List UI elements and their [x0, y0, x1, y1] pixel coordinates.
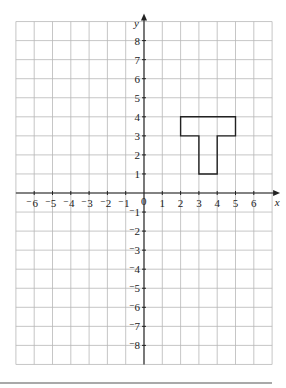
t-shape-outline [181, 117, 236, 174]
x-tick-label: 2 [178, 197, 184, 209]
y-tick-label: ⁻6 [129, 301, 141, 313]
axes [16, 14, 280, 365]
x-axis-label: x [274, 196, 280, 208]
y-tick-label: 3 [135, 130, 141, 142]
x-tick-label: 6 [251, 197, 257, 209]
y-tick-label: ⁻1 [129, 206, 141, 218]
x-tick-label: 3 [196, 197, 202, 209]
y-tick-label: ⁻5 [129, 282, 141, 294]
y-tick-label: ⁻3 [129, 244, 141, 256]
y-tick-label: 5 [135, 92, 141, 104]
x-tick-label: ⁻2 [100, 197, 112, 209]
t-shape [181, 117, 236, 174]
y-tick-label: ⁻4 [129, 263, 141, 275]
x-tick-label: ⁻4 [63, 197, 75, 209]
y-tick-label: 6 [135, 73, 141, 85]
y-axis-label: y [133, 17, 139, 29]
y-tick-label: 8 [135, 35, 141, 47]
x-tick-label: 5 [233, 197, 239, 209]
y-tick-label: 7 [135, 54, 141, 66]
x-tick-label: ⁻5 [45, 197, 57, 209]
x-tick-label: 1 [160, 197, 166, 209]
y-tick-label: ⁻7 [129, 320, 141, 332]
tick-labels: ⁻6⁻5⁻4⁻3⁻2⁻112345687654321⁻1⁻2⁻3⁻4⁻5⁻6⁻7… [26, 17, 279, 352]
origin-label: 0 [141, 195, 147, 207]
x-tick-label: ⁻3 [81, 197, 93, 209]
y-axis-arrow-icon [141, 14, 147, 21]
y-tick-label: ⁻8 [129, 339, 141, 351]
coordinate-grid-figure: ⁻6⁻5⁻4⁻3⁻2⁻112345687654321⁻1⁻2⁻3⁻4⁻5⁻6⁻7… [0, 0, 286, 388]
y-tick-label: 1 [135, 168, 141, 180]
y-tick-label: ⁻2 [129, 225, 141, 237]
x-tick-label: 4 [214, 197, 220, 209]
y-tick-label: 2 [135, 149, 141, 161]
x-tick-label: ⁻6 [26, 197, 38, 209]
y-tick-label: 4 [135, 111, 141, 123]
coordinate-grid-svg: ⁻6⁻5⁻4⁻3⁻2⁻112345687654321⁻1⁻2⁻3⁻4⁻5⁻6⁻7… [0, 0, 286, 388]
